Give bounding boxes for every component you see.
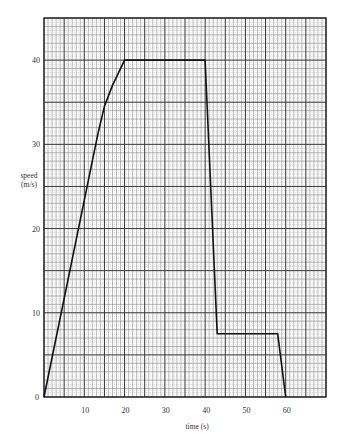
y-axis-tick-labels: 010203040 (32, 56, 40, 402)
x-axis-tick-labels: 102030405060 (81, 406, 290, 415)
x-axis-label: time (s) (186, 422, 210, 431)
x-tick-label: 20 (122, 406, 130, 415)
y-tick-label: 10 (32, 309, 40, 318)
y-tick-label: 0 (35, 393, 39, 402)
x-tick-label: 60 (283, 406, 291, 415)
y-tick-label: 40 (32, 56, 40, 65)
x-tick-label: 40 (202, 406, 210, 415)
y-axis-label-line1: speed (20, 171, 37, 180)
x-tick-label: 50 (242, 406, 250, 415)
x-tick-label: 10 (81, 406, 89, 415)
speed-time-graph: 102030405060 010203040 time (s) speed (m… (0, 0, 340, 441)
y-tick-label: 20 (32, 225, 40, 234)
y-axis-label-line2: (m/s) (21, 180, 37, 189)
y-tick-label: 30 (32, 140, 40, 149)
x-tick-label: 30 (162, 406, 170, 415)
